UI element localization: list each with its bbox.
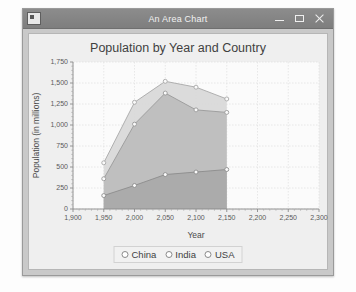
svg-text:2,200: 2,200 — [249, 214, 267, 221]
chart-panel: Population by Year and Country 025050075… — [28, 33, 328, 270]
legend-label: India — [175, 249, 196, 260]
circle-marker-icon — [122, 251, 129, 258]
svg-text:1,750: 1,750 — [50, 58, 68, 65]
minimize-icon[interactable] — [274, 13, 285, 24]
svg-text:2,300: 2,300 — [310, 214, 328, 221]
legend-item-india[interactable]: India — [165, 249, 196, 260]
chart-legend: China India USA — [114, 246, 243, 263]
svg-text:2,050: 2,050 — [156, 214, 174, 221]
screen: An Area Chart Population by Year and Cou… — [0, 0, 356, 292]
svg-text:2,150: 2,150 — [218, 214, 236, 221]
svg-text:500: 500 — [56, 163, 68, 170]
window-titlebar[interactable]: An Area Chart — [23, 9, 333, 29]
maximize-icon[interactable] — [294, 13, 305, 24]
svg-text:2,100: 2,100 — [187, 214, 205, 221]
svg-text:1,500: 1,500 — [50, 79, 68, 86]
app-icon — [27, 12, 41, 25]
svg-text:0: 0 — [64, 205, 68, 212]
circle-marker-icon — [205, 251, 212, 258]
application-window: An Area Chart Population by Year and Cou… — [22, 8, 334, 276]
window-controls — [274, 13, 333, 24]
svg-text:1,250: 1,250 — [50, 100, 68, 107]
legend-item-usa[interactable]: USA — [205, 249, 235, 260]
legend-item-china[interactable]: China — [122, 249, 157, 260]
svg-text:750: 750 — [56, 142, 68, 149]
svg-text:2,000: 2,000 — [126, 214, 144, 221]
svg-text:Year: Year — [187, 230, 204, 240]
svg-text:1,900: 1,900 — [64, 214, 82, 221]
svg-text:2,250: 2,250 — [279, 214, 297, 221]
close-icon[interactable] — [314, 13, 325, 24]
circle-marker-icon — [165, 251, 172, 258]
plot-area: 02505007501,0001,2501,5001,7501,9001,950… — [29, 56, 327, 241]
area-chart-svg: 02505007501,0001,2501,5001,7501,9001,950… — [29, 56, 329, 241]
svg-text:1,950: 1,950 — [95, 214, 113, 221]
svg-text:Population (in millions): Population (in millions) — [31, 93, 41, 179]
svg-text:250: 250 — [56, 184, 68, 191]
chart-title: Population by Year and Country — [29, 41, 327, 55]
legend-label: China — [132, 249, 157, 260]
legend-label: USA — [215, 249, 235, 260]
svg-text:1,000: 1,000 — [50, 121, 68, 128]
